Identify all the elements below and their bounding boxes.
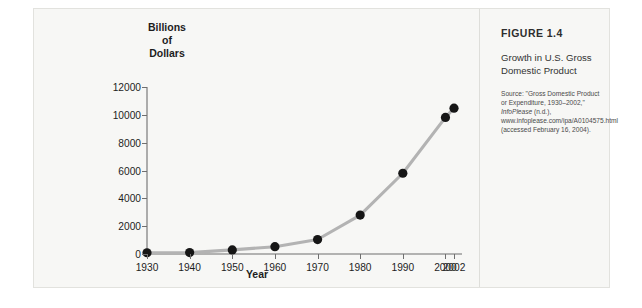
x-axis-tick	[275, 254, 276, 259]
figure-title: Growth in U.S. Gross Domestic Product	[501, 51, 607, 77]
x-axis-tick-label: 1970	[296, 262, 340, 273]
y-axis-tick	[142, 226, 147, 227]
panel-divider	[479, 9, 480, 287]
data-markers	[142, 104, 458, 258]
caption-panel: FIGURE 1.4 Growth in U.S. Gross Domestic…	[501, 9, 609, 287]
chart-panel: Billions of Dollars 02000400060008000100…	[34, 9, 479, 287]
x-axis-title: Year	[217, 268, 297, 280]
x-axis-tick-label: 1940	[168, 262, 212, 273]
y-axis-tick-label: 0	[95, 249, 141, 260]
x-axis-tick	[454, 254, 455, 259]
x-axis-tick-label: 2002	[432, 262, 476, 273]
figure-source-publication: InfoPlease	[501, 108, 532, 115]
y-axis-tick	[142, 115, 147, 116]
y-axis-tick-label: 10000	[95, 109, 141, 120]
y-axis-tick-label: 12000	[95, 82, 141, 93]
x-axis-tick-label: 1930	[125, 262, 169, 273]
data-point	[441, 113, 450, 122]
figure-source: Source: "Gross Domestic Product or Expen…	[501, 89, 605, 134]
y-axis-tick-label: 2000	[95, 221, 141, 232]
data-point	[313, 235, 322, 244]
y-axis-tick	[142, 198, 147, 199]
data-line	[147, 108, 454, 253]
data-point	[356, 210, 365, 219]
x-axis-tick-label: 1980	[338, 262, 382, 273]
figure-root: Billions of Dollars 02000400060008000100…	[0, 0, 642, 308]
y-axis-tick	[142, 171, 147, 172]
y-axis-tick-label: 4000	[95, 193, 141, 204]
x-axis-tick	[232, 254, 233, 259]
x-axis-tick	[318, 254, 319, 259]
x-axis-tick	[360, 254, 361, 259]
x-axis-tick	[190, 254, 191, 259]
data-point	[398, 169, 407, 178]
data-point	[270, 242, 279, 251]
figure-card: Billions of Dollars 02000400060008000100…	[33, 8, 610, 288]
data-point	[449, 104, 458, 113]
x-axis-tick	[445, 254, 446, 259]
figure-source-lead: Source: "Gross Domestic Product or Expen…	[501, 90, 599, 106]
y-axis-tick	[142, 87, 147, 88]
plot-area: 020004000600080001000012000 193019401950…	[34, 9, 479, 287]
y-axis-tick-label: 8000	[95, 137, 141, 148]
x-axis-tick-label: 1990	[381, 262, 425, 273]
figure-number: FIGURE 1.4	[501, 27, 563, 39]
x-axis-tick	[147, 254, 148, 259]
y-axis-tick	[142, 143, 147, 144]
y-axis-tick-label: 6000	[95, 165, 141, 176]
x-axis-tick	[403, 254, 404, 259]
